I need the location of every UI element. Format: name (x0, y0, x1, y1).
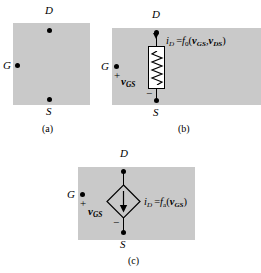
panel-b-eq-current-sub: D (169, 40, 174, 48)
panel-c-equation: iD =fa(vGS) (144, 197, 187, 208)
panel-b-node-s (154, 98, 159, 103)
panel-b-terminal-label-g: G (101, 61, 109, 72)
panel-a-terminal-label-d: D (45, 5, 53, 16)
panel-b-current-arrow-icon (153, 33, 159, 39)
panel-c-node-s (121, 230, 126, 235)
panel-c-caption: (c) (128, 256, 139, 266)
panel-a-box (13, 23, 90, 105)
panel-c-terminal-label-g: G (67, 189, 75, 200)
panel-c-terminal-label-s: S (120, 239, 126, 250)
panel-c-eq-function-sub: a (163, 201, 166, 209)
panel-b-caption: (b) (178, 124, 190, 134)
panel-b-eq-arg2-sub: DS (213, 40, 222, 48)
panel-b-resistor-zigzag-icon (149, 51, 165, 85)
panel-c-dependent-source-icon (106, 184, 141, 219)
panel-b-terminal-label-d: D (152, 9, 160, 20)
panel-b-voltage-label: vGS (121, 76, 135, 87)
panel-c-voltage-label: vGS (88, 206, 102, 217)
panel-a-node-g (15, 63, 20, 68)
panel-b-voltage-subscript: GS (126, 80, 136, 89)
panel-c-terminal-label-d: D (120, 148, 128, 159)
panel-b-eq-close-paren: ) (222, 35, 226, 46)
panel-a-terminal-label-s: S (46, 106, 52, 117)
figure-root: D G S (a) D S G + vGS − iD =f0(vGS,vDS) … (0, 0, 261, 273)
panel-b-eq-arg1-sub: GS (197, 40, 206, 48)
panel-c-minus-sign: − (113, 217, 119, 228)
panel-b-equation: iD =f0(vGS,vDS) (166, 36, 226, 47)
panel-a-caption: (a) (42, 124, 53, 134)
panel-b-eq-function-sub: 0 (185, 40, 189, 48)
panel-c-eq-current-sub: D (147, 201, 152, 209)
panel-c-voltage-subscript: GS (93, 210, 103, 219)
panel-a-node-d (47, 28, 52, 33)
panel-c-plus-sign: + (80, 198, 86, 209)
panel-c-eq-close-paren: ) (183, 196, 187, 207)
panel-b-minus-sign: − (146, 88, 152, 99)
panel-a-node-s (47, 97, 52, 102)
panel-a-terminal-label-g: G (3, 60, 11, 71)
panel-b-plus-sign: + (114, 70, 120, 81)
panel-b-terminal-label-s: S (153, 107, 159, 118)
panel-c-eq-arg1-sub: GS (174, 201, 183, 209)
